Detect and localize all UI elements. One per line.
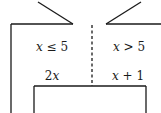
- piecewise-machine-diagram: [0, 0, 161, 113]
- left-output-coefficient: 2: [45, 69, 53, 83]
- left-output-expression: 2x: [45, 69, 59, 83]
- left-input-funnel-diagonal: [38, 2, 73, 24]
- right-input-funnel-diagonal: [106, 2, 141, 24]
- right-output-expression: x + 1: [112, 69, 144, 83]
- left-condition-variable: x: [36, 40, 43, 54]
- left-condition-label: x ≤ 5: [36, 40, 68, 54]
- right-condition-variable: x: [113, 40, 120, 54]
- left-output-variable: x: [52, 69, 59, 83]
- right-condition-label: x > 5: [113, 40, 145, 54]
- right-output-rest: + 1: [119, 69, 144, 83]
- left-condition-inequality: ≤ 5: [43, 40, 68, 54]
- right-output-variable: x: [112, 69, 119, 83]
- right-condition-inequality: > 5: [120, 40, 145, 54]
